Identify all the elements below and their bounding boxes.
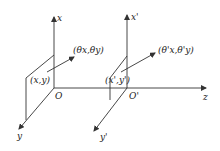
point-prime-label: (x',y') [105, 75, 130, 85]
origin-prime-label: O' [129, 91, 139, 101]
output-ray-arrow [121, 53, 155, 72]
y-prime-axis [94, 88, 127, 131]
ray-prime-angle-label: (θ'x,θ'y) [158, 45, 194, 55]
input-ray-arrow [47, 57, 74, 72]
x-axis-label: x [57, 13, 62, 23]
point-label: (x,y) [30, 75, 51, 85]
x-prime-axis-label: x' [131, 12, 139, 22]
output-plane [94, 15, 155, 131]
ray-angle-label: (θx,θy) [73, 45, 104, 55]
y-axis-label: y [16, 131, 23, 141]
y-axis [19, 88, 54, 129]
origin-label: O [55, 91, 63, 101]
input-plane [19, 17, 74, 129]
y-prime-axis-label: y' [99, 132, 108, 142]
z-axis-label: z [202, 92, 208, 102]
diagram-canvas: x y O (x,y) (θx,θy) x' y' O' (x',y') (θ'… [0, 0, 220, 151]
